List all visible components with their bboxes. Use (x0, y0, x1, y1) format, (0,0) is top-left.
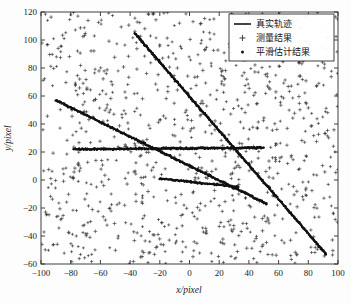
smoothed-estimate-point (150, 148, 152, 150)
smoothed-estimate-point (230, 146, 232, 148)
x-tick-label: 20 (215, 268, 225, 278)
x-tick-label: 60 (274, 268, 284, 278)
smoothed-estimate-point (162, 63, 164, 65)
smoothed-estimate-point (112, 129, 114, 131)
smoothed-estimate-point (143, 42, 145, 44)
smoothed-estimate-point (323, 251, 325, 253)
smoothed-estimate-point (293, 216, 295, 218)
smoothed-estimate-point (163, 152, 165, 154)
smoothed-estimate-point (186, 163, 188, 165)
smoothed-estimate-point (244, 159, 246, 161)
smoothed-estimate-point (266, 202, 268, 204)
y-tick-label: 40 (28, 119, 38, 129)
x-tick-label: 0 (187, 268, 192, 278)
smoothed-estimate-point (144, 147, 146, 149)
y-tick-label: −20 (23, 203, 38, 213)
smoothed-estimate-point (133, 137, 135, 139)
smoothed-estimate-point (183, 180, 185, 182)
smoothed-estimate-point (252, 195, 254, 197)
x-tick-label: 40 (244, 268, 254, 278)
smoothed-estimate-point (83, 114, 85, 116)
y-tick-label: 80 (28, 63, 38, 73)
smoothed-estimate-point (199, 107, 201, 109)
smoothed-estimate-point (139, 147, 141, 149)
smoothed-estimate-point (187, 180, 189, 182)
x-tick-label: −20 (153, 268, 168, 278)
smoothed-estimate-point (214, 126, 216, 128)
y-axis-title: y/pixel (3, 125, 13, 152)
y-tick-label: −60 (23, 259, 38, 269)
smoothed-estimate-point (163, 65, 165, 67)
y-tick-label: −40 (23, 231, 38, 241)
x-tick-label: −80 (64, 268, 79, 278)
smoothed-estimate-point (196, 182, 198, 184)
smoothed-estimate-point (185, 90, 187, 92)
smoothed-estimate-point (213, 176, 215, 178)
smoothed-estimate-point (182, 88, 184, 90)
x-tick-label: −100 (32, 268, 51, 278)
y-tick-label: 60 (28, 91, 38, 101)
smoothed-estimate-point (249, 166, 251, 168)
legend-label: 真实轨迹 (256, 18, 292, 29)
smoothed-estimate-point (208, 147, 210, 149)
smoothed-estimate-point (216, 185, 218, 187)
smoothed-estimate-point (87, 148, 89, 150)
smoothed-estimate-point (169, 178, 171, 180)
smoothed-estimate-point (226, 148, 228, 150)
legend-dot-marker (241, 51, 244, 54)
smoothed-estimate-point (186, 148, 188, 150)
smoothed-estimate-point (202, 171, 204, 173)
y-tick-label: 120 (24, 7, 38, 17)
x-tick-label: −40 (123, 268, 138, 278)
smoothed-estimate-point (83, 112, 85, 114)
smoothed-estimate-point (263, 147, 265, 149)
smoothed-estimate-point (196, 168, 198, 170)
smoothed-estimate-point (180, 86, 182, 88)
smoothed-estimate-point (210, 148, 212, 150)
smoothed-estimate-point (121, 149, 123, 151)
smoothed-estimate-point (177, 82, 179, 84)
smoothed-estimate-point (202, 111, 204, 113)
smoothed-estimate-point (107, 125, 109, 127)
smoothed-estimate-point (277, 197, 279, 199)
smoothed-estimate-point (217, 179, 219, 181)
smoothed-estimate-point (205, 148, 207, 150)
x-tick-label: 100 (331, 268, 345, 278)
y-tick-label: 20 (28, 147, 38, 157)
legend-label: 测量结果 (256, 32, 292, 43)
smoothed-estimate-point (325, 254, 327, 256)
legend: 真实轨迹测量结果平滑估计结果 (229, 14, 334, 61)
smoothed-estimate-point (153, 149, 155, 151)
smoothed-estimate-point (101, 122, 103, 124)
smoothed-estimate-point (141, 143, 143, 145)
smoothed-estimate-point (166, 69, 168, 71)
smoothed-estimate-point (142, 147, 144, 149)
smoothed-estimate-point (181, 147, 183, 149)
smoothed-estimate-point (216, 127, 218, 129)
smoothed-estimate-point (240, 154, 242, 156)
scatter-plot: −100−80−60−40−20020406080100 −60−40−2002… (0, 0, 351, 305)
smoothed-estimate-point (158, 59, 160, 61)
smoothed-estimate-point (259, 176, 261, 178)
smoothed-estimate-point (180, 160, 182, 162)
smoothed-estimate-point (180, 162, 182, 164)
smoothed-estimate-point (224, 148, 226, 150)
smoothed-estimate-point (245, 161, 247, 163)
smoothed-estimate-point (202, 183, 204, 185)
smoothed-estimate-point (175, 180, 177, 182)
smoothed-estimate-point (263, 181, 265, 183)
smoothed-estimate-point (300, 224, 302, 226)
x-axis-title: x/pixel (175, 285, 202, 295)
smoothed-estimate-point (270, 190, 272, 192)
smoothed-estimate-point (100, 147, 102, 149)
figure-container: −100−80−60−40−20020406080100 −60−40−2002… (0, 0, 351, 305)
legend-label: 平滑估计结果 (256, 46, 310, 57)
x-tick-label: 80 (304, 268, 314, 278)
y-tick-label: 100 (24, 35, 38, 45)
smoothed-estimate-point (237, 185, 239, 187)
smoothed-estimate-point (317, 243, 319, 245)
smoothed-estimate-point (136, 149, 138, 151)
smoothed-estimate-point (209, 119, 211, 121)
x-tick-label: −60 (93, 268, 108, 278)
smoothed-estimate-point (220, 131, 222, 133)
